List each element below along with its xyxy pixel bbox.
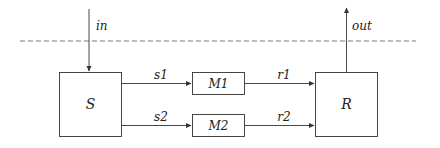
s2-label: s2 [154, 110, 168, 124]
s1-label: s1 [154, 68, 168, 82]
edge-s2: s2 [122, 110, 192, 126]
block-s: S [60, 73, 122, 137]
in-label: in [96, 19, 108, 33]
block-diagram: in S s1 s2 M1 M2 r1 [0, 0, 440, 148]
block-m1: M1 [193, 73, 245, 95]
edge-r1: r1 [245, 68, 315, 84]
block-m1-label: M1 [208, 77, 229, 91]
edge-in: in [89, 9, 108, 71]
block-s-label: S [86, 96, 96, 112]
edge-r2: r2 [245, 110, 315, 126]
block-m2: M2 [193, 115, 245, 137]
r1-label: r1 [277, 68, 290, 82]
edge-out: out [347, 8, 372, 72]
edge-s1: s1 [122, 68, 192, 84]
block-m2-label: M2 [208, 119, 229, 133]
block-r: R [316, 73, 378, 137]
out-label: out [352, 19, 372, 33]
r2-label: r2 [277, 110, 290, 124]
block-r-label: R [340, 96, 352, 112]
